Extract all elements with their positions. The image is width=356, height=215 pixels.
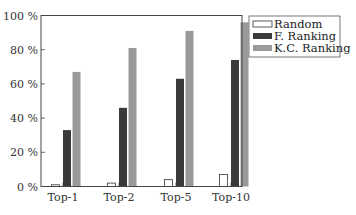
y-tick-label: 80 % (10, 44, 38, 57)
legend-swatch (253, 33, 272, 39)
bar-f-ranking-top-5 (176, 79, 184, 187)
legend-swatch (253, 21, 272, 27)
bar-random-top-5 (165, 180, 173, 187)
bar-chart: 0 %20 %40 %60 %80 %100 % Top-1Top-2Top-5… (0, 0, 356, 215)
bar-random-top-10 (220, 175, 228, 187)
y-tick-label: 100 % (3, 10, 38, 23)
y-tick-label: 40 % (10, 112, 38, 125)
legend: RandomF. RankingK.C. Ranking (249, 16, 351, 57)
y-tick-label: 20 % (10, 146, 38, 159)
bar-random-top-2 (108, 183, 116, 186)
bar-k-c-ranking-top-5 (186, 31, 194, 187)
x-tick-label: Top-5 (161, 191, 192, 204)
x-tick-label: Top-2 (104, 191, 135, 204)
y-tick-label: 0 % (17, 181, 38, 194)
legend-swatch (253, 45, 272, 51)
bar-k-c-ranking-top-2 (129, 48, 137, 187)
bar-f-ranking-top-2 (119, 108, 127, 187)
bar-f-ranking-top-1 (63, 130, 71, 186)
y-tick-label: 60 % (10, 78, 38, 91)
bars (52, 22, 249, 186)
bar-f-ranking-top-10 (231, 60, 239, 187)
y-axis: 0 %20 %40 %60 %80 %100 % (3, 10, 45, 194)
legend-label: K.C. Ranking (274, 41, 351, 55)
x-tick-label: Top-10 (212, 191, 250, 204)
plot-frame (41, 16, 242, 187)
x-tick-label: Top-1 (48, 191, 79, 204)
bar-k-c-ranking-top-1 (73, 72, 81, 187)
